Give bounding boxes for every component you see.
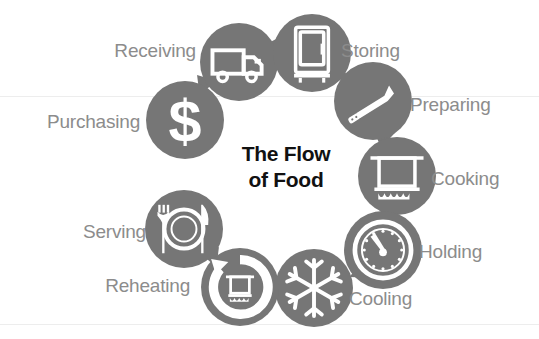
step-label-receiving: Receiving [114,41,196,60]
center-title-line-2: of Food [222,167,350,193]
dial-thermometer-icon [344,211,422,289]
chef-knife-icon [334,62,412,140]
center-title-line-1: The Flow [222,141,350,167]
snowflake-icon [275,249,353,327]
delivery-truck-icon [200,23,278,101]
svg-text:$: $ [169,88,202,155]
step-label-preparing: Preparing [410,95,491,114]
flow-of-food-diagram: $ Purchasing Receiving Storing [0,0,539,339]
step-label-purchasing: Purchasing [47,112,140,131]
step-label-holding: Holding [419,242,482,261]
cooking-pot-icon [358,137,436,215]
step-label-reheating: Reheating [105,276,190,295]
plate-fork-knife-icon [145,190,223,268]
step-label-storing: Storing [341,41,400,60]
step-label-cooking: Cooking [431,169,499,188]
diagram-center-title: The Flow of Food [222,141,350,192]
step-label-cooling: Cooling [349,289,412,308]
step-label-serving: Serving [83,222,146,241]
